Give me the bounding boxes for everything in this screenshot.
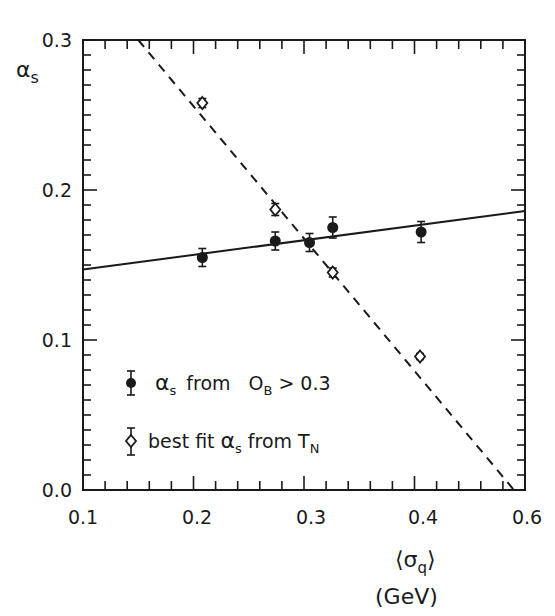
y-tick-label: 0.0	[42, 479, 72, 501]
x-tick-label: 0.1	[68, 506, 98, 528]
filled-data-point	[270, 232, 281, 250]
fit-lines	[83, 40, 525, 490]
y-tick-labels: 0.0 0.1 0.2 0.3	[42, 29, 72, 501]
svg-text:best fitαsfromTN: best fitαsfromTN	[148, 428, 319, 456]
y-tick-label: 0.1	[42, 329, 72, 351]
x-axis-title: ⟨σq⟩ (GeV)	[375, 547, 438, 609]
y-tick-label: 0.2	[42, 179, 72, 201]
filled-data-point	[197, 249, 208, 267]
legend-item-filled: αsfromOB> 0.3	[126, 370, 331, 398]
legend-item-open: best fitαsfromTN	[126, 428, 319, 456]
svg-text:(GeV): (GeV)	[375, 584, 438, 609]
svg-text:αs: αs	[16, 57, 39, 87]
dashed-fit-line	[138, 40, 514, 490]
y-axis-title: αs	[16, 57, 39, 87]
svg-text:⟨σq⟩: ⟨σq⟩	[395, 547, 436, 577]
chart: 0.1 0.2 0.3 0.4 0.6 0.0 0.1 0.2 0.3 αs ⟨…	[0, 0, 555, 616]
x-tick-label: 0.2	[182, 506, 212, 528]
data-points	[197, 97, 427, 363]
open-diamond-icon	[126, 435, 136, 447]
svg-text:αsfromOB> 0.3: αsfromOB> 0.3	[155, 370, 331, 398]
y-tick-label: 0.3	[42, 29, 72, 51]
open-data-point	[415, 351, 425, 363]
open-data-point	[328, 267, 338, 279]
open-data-point	[270, 204, 280, 216]
x-tick-labels: 0.1 0.2 0.3 0.4 0.6	[68, 506, 542, 528]
legend: αsfromOB> 0.3 best fitαsfromTN	[126, 370, 331, 456]
x-tick-label: 0.3	[296, 506, 326, 528]
filled-data-point	[327, 217, 338, 238]
x-tick-label: 0.4	[408, 506, 438, 528]
solid-fit-line	[83, 211, 525, 270]
open-data-point	[197, 97, 207, 109]
x-tick-label: 0.6	[512, 506, 542, 528]
filled-circle-icon	[126, 378, 136, 388]
